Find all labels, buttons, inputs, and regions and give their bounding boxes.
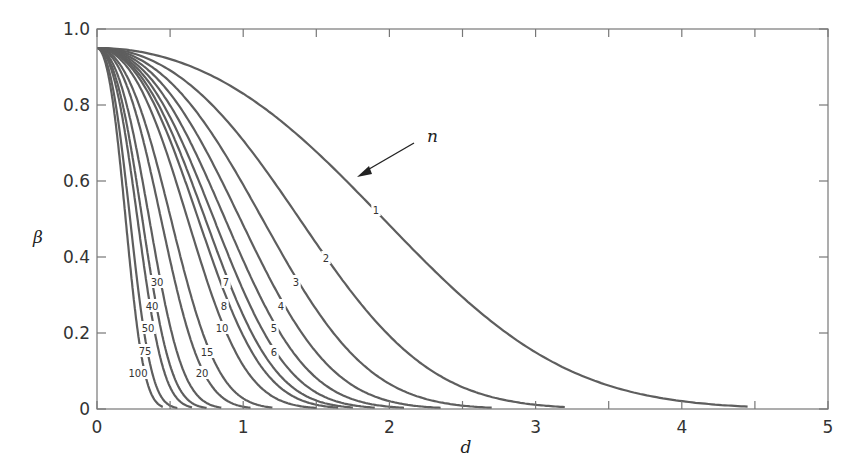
y-tick-label: 0.6 <box>63 171 90 191</box>
oc-curve-chart: 1234567810152030405075100 012345 00.20.4… <box>0 0 859 472</box>
curve-label-n-15: 15 <box>201 347 214 358</box>
curve-label-n-3: 3 <box>293 277 299 288</box>
curve-n-15 <box>97 48 272 408</box>
curve-label-n-30: 30 <box>151 277 164 288</box>
y-tick-label: 0 <box>79 399 90 419</box>
x-tick-label: 5 <box>823 417 834 437</box>
y-axis: 00.20.40.60.81.0 <box>63 19 828 419</box>
arrow-head-icon <box>357 166 372 177</box>
x-tick-label: 2 <box>384 417 395 437</box>
x-tick-label: 1 <box>238 417 249 437</box>
annotation-n: n <box>427 126 438 146</box>
curve-label-n-100: 100 <box>128 368 147 379</box>
curve-n-7 <box>97 48 353 408</box>
curve-labels: 1234567810152030405075100 <box>127 203 381 379</box>
x-axis-title: d <box>461 437 472 457</box>
n-annotation: n <box>357 126 438 177</box>
y-tick-label: 1.0 <box>63 19 90 39</box>
y-axis-title: β <box>32 227 43 247</box>
curve-label-n-2: 2 <box>323 253 329 264</box>
curve-label-n-50: 50 <box>142 323 155 334</box>
curve-label-n-20: 20 <box>196 368 209 379</box>
curve-label-n-7: 7 <box>223 277 229 288</box>
curve-label-n-1: 1 <box>373 205 379 216</box>
x-tick-label: 3 <box>530 417 541 437</box>
curve-label-n-8: 8 <box>221 301 227 312</box>
curve-label-n-10: 10 <box>216 323 229 334</box>
oc-curves <box>97 48 748 408</box>
curve-label-n-75: 75 <box>139 346 152 357</box>
x-tick-label: 4 <box>676 417 687 437</box>
curve-label-n-4: 4 <box>278 301 284 312</box>
arrow-line <box>364 143 414 172</box>
curve-label-n-5: 5 <box>271 323 277 334</box>
y-tick-label: 0.2 <box>63 323 90 343</box>
curve-label-n-6: 6 <box>271 347 277 358</box>
x-tick-label: 0 <box>92 417 103 437</box>
y-tick-label: 0.4 <box>63 247 90 267</box>
curve-label-n-40: 40 <box>146 301 159 312</box>
y-tick-label: 0.8 <box>63 95 90 115</box>
